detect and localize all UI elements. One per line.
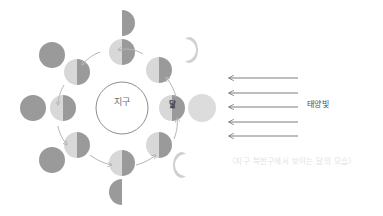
phase-last-quarter xyxy=(122,10,135,36)
orbit-moon-lower-right xyxy=(146,132,172,158)
orbit-moon-left xyxy=(50,95,76,121)
sunlight-label: 태양빛 xyxy=(307,98,329,109)
figure-caption: 〈지구 북반구에서 보이는 달의 모습〉 xyxy=(228,155,356,166)
phase-waxing-crescent xyxy=(173,152,186,178)
moon-label: 달 xyxy=(160,98,184,109)
orbit-arrow-se xyxy=(90,155,112,165)
phase-waning-crescent xyxy=(185,37,198,63)
orbit-arrow-up-right xyxy=(174,118,177,139)
sun-rays xyxy=(229,78,298,136)
orbit-moon-bottom xyxy=(109,150,135,176)
orbit-moon-upper-left xyxy=(64,59,90,85)
phase-full-moon xyxy=(188,94,216,122)
orbit-moon-lower-left xyxy=(64,132,90,158)
orbit-arrow-up-right2 xyxy=(166,77,176,97)
earth-label: 지구 xyxy=(97,95,147,108)
phase-first-quarter xyxy=(109,179,122,205)
orbit-moon-top xyxy=(109,39,135,65)
phase-new-moon-upper-left xyxy=(39,42,65,68)
phase-new-moon-lower-left xyxy=(39,147,65,173)
earth-circle xyxy=(96,82,148,134)
moon-phase-diagram: 지구 달 태양빛 〈지구 북반구에서 보이는 달의 모습〉 xyxy=(0,0,383,216)
phase-new-moon-left xyxy=(20,95,46,121)
